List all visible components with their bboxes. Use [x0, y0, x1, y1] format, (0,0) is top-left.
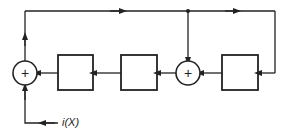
- sum1-symbol: +: [21, 65, 29, 81]
- block-1: [58, 55, 93, 90]
- block-3: [222, 55, 258, 90]
- block-diagram: + +: [0, 0, 290, 138]
- block-2: [121, 55, 157, 90]
- input-label: i(X): [62, 116, 79, 128]
- junction-dot: [186, 9, 190, 13]
- sum2-symbol: +: [184, 65, 192, 81]
- input-line: [25, 85, 58, 123]
